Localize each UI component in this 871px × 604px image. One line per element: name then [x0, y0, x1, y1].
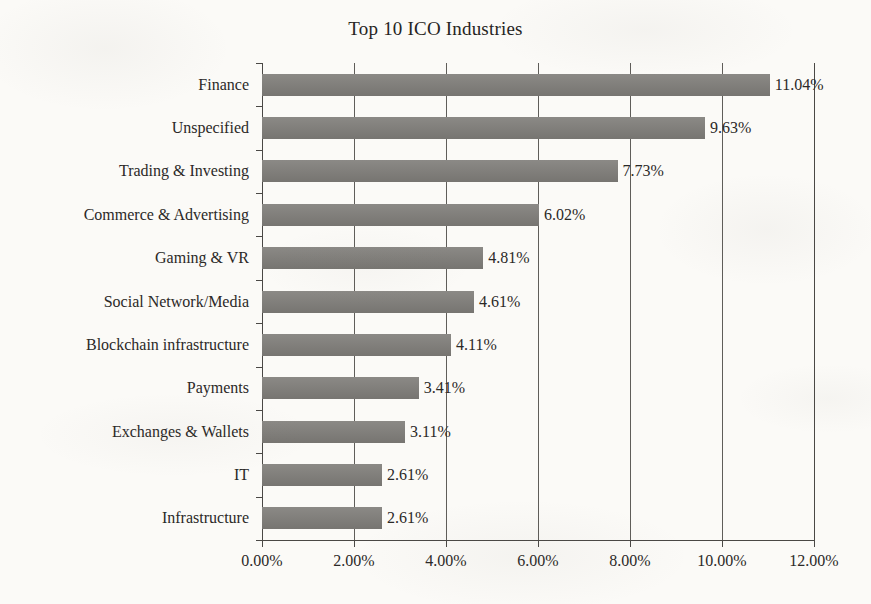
y-axis-category-label: Trading & Investing — [0, 162, 256, 180]
bar — [262, 507, 382, 529]
bar-row: 4.11% — [262, 334, 814, 356]
y-axis-tick — [256, 323, 262, 324]
bar-value-label: 11.04% — [770, 75, 824, 93]
bar-value-label: 3.11% — [405, 422, 451, 440]
plot-area: 11.04%9.63%7.73%6.02%4.81%4.61%4.11%3.41… — [262, 63, 814, 540]
bar — [262, 421, 405, 443]
y-axis-tick — [256, 193, 262, 194]
bar-value-label: 3.41% — [419, 379, 465, 397]
y-axis-category-label: Payments — [0, 379, 256, 397]
bar-row: 4.61% — [262, 291, 814, 313]
x-axis-tick — [630, 541, 631, 547]
bar — [262, 74, 770, 96]
bar-value-label: 2.61% — [382, 466, 428, 484]
x-axis-tick — [538, 541, 539, 547]
y-axis-category-label: Social Network/Media — [0, 292, 256, 310]
x-axis-tick — [814, 541, 815, 547]
y-axis-tick — [256, 367, 262, 368]
bar-value-label: 4.61% — [474, 292, 520, 310]
y-axis-tick — [256, 410, 262, 411]
y-axis-tick — [256, 236, 262, 237]
x-axis-tick — [446, 541, 447, 547]
bar-row: 3.41% — [262, 377, 814, 399]
bar — [262, 464, 382, 486]
x-axis-tick — [354, 541, 355, 547]
bar — [262, 204, 539, 226]
y-axis-category-label: Exchanges & Wallets — [0, 422, 256, 440]
x-axis-tick-label: 2.00% — [333, 552, 374, 570]
y-axis-tick — [256, 280, 262, 281]
x-axis-tick-label: 8.00% — [609, 552, 650, 570]
x-axis-tick-label: 0.00% — [241, 552, 282, 570]
bar-row: 6.02% — [262, 204, 814, 226]
y-axis-category-label: Unspecified — [0, 119, 256, 137]
y-axis-tick — [256, 150, 262, 151]
gridline — [814, 63, 815, 540]
y-axis-tick — [256, 540, 262, 541]
bar-row: 4.81% — [262, 247, 814, 269]
y-axis-tick — [256, 453, 262, 454]
bar-value-label: 2.61% — [382, 509, 428, 527]
bar-value-label: 6.02% — [539, 205, 585, 223]
y-axis-tick — [256, 497, 262, 498]
bar — [262, 160, 618, 182]
bar-value-label: 4.11% — [451, 335, 497, 353]
bar-value-label: 4.81% — [483, 249, 529, 267]
bar-row: 2.61% — [262, 507, 814, 529]
y-axis-category-label: Infrastructure — [0, 509, 256, 527]
bar-row: 2.61% — [262, 464, 814, 486]
y-axis-category-label: Blockchain infrastructure — [0, 336, 256, 354]
x-axis-tick-label: 6.00% — [517, 552, 558, 570]
bar-row: 7.73% — [262, 160, 814, 182]
bar-row: 9.63% — [262, 117, 814, 139]
bar — [262, 247, 483, 269]
x-axis-tick — [262, 541, 263, 547]
y-axis-tick — [256, 63, 262, 64]
x-axis-tick-label: 10.00% — [697, 552, 746, 570]
y-axis-category-label: Gaming & VR — [0, 249, 256, 267]
x-axis-tick — [722, 541, 723, 547]
x-axis-tick-label: 12.00% — [789, 552, 838, 570]
bar-value-label: 9.63% — [705, 119, 751, 137]
x-axis-tick-labels: 0.00%2.00%4.00%6.00%8.00%10.00%12.00% — [0, 552, 871, 578]
chart-title: Top 10 ICO Industries — [0, 18, 871, 40]
y-axis-category-label: IT — [0, 466, 256, 484]
bar-row: 3.11% — [262, 421, 814, 443]
y-axis-category-label: Commerce & Advertising — [0, 206, 256, 224]
bar-row: 11.04% — [262, 74, 814, 96]
bar-value-label: 7.73% — [618, 162, 664, 180]
bar — [262, 334, 451, 356]
bar — [262, 377, 419, 399]
chart-plot-wrapper: FinanceUnspecifiedTrading & InvestingCom… — [0, 0, 871, 604]
y-axis-category-labels: FinanceUnspecifiedTrading & InvestingCom… — [0, 63, 256, 540]
y-axis-tick — [256, 106, 262, 107]
x-axis-tick-label: 4.00% — [425, 552, 466, 570]
bar — [262, 291, 474, 313]
bar — [262, 117, 705, 139]
y-axis-category-label: Finance — [0, 75, 256, 93]
